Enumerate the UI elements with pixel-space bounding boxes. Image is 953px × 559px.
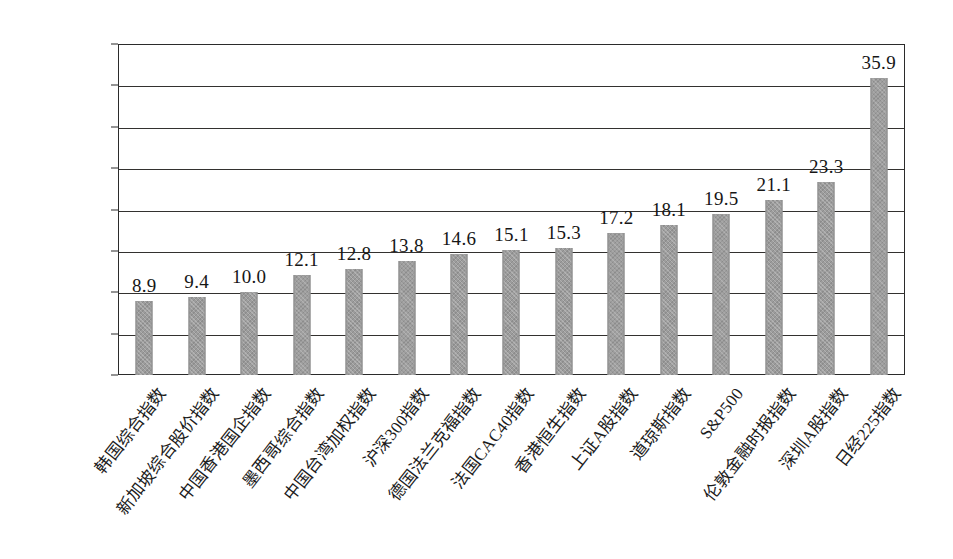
- bar[interactable]: [660, 225, 677, 375]
- bar-value-label: 8.9: [132, 276, 157, 295]
- bar-slot: 23.3: [800, 44, 852, 375]
- bar-value-label: 18.1: [652, 200, 686, 219]
- bar-value-label: 12.1: [284, 250, 318, 269]
- y-tick-mark: [111, 292, 118, 293]
- x-axis-label: 新加坡综合股价指数: [113, 385, 222, 517]
- bar-slot: 15.1: [485, 44, 537, 375]
- y-tick-mark: [111, 44, 118, 45]
- bar[interactable]: [293, 275, 310, 375]
- x-axis-label: S&P500: [697, 385, 747, 442]
- y-tick-mark: [111, 333, 118, 334]
- bar-value-label: 35.9: [862, 53, 896, 72]
- y-tick-mark: [111, 250, 118, 251]
- bar-value-label: 23.3: [809, 157, 843, 176]
- bar-slot: 12.8: [328, 44, 380, 375]
- x-axis-label: 中国台湾加权指数: [281, 385, 379, 504]
- bar-value-label: 15.1: [494, 225, 528, 244]
- bar-value-label: 10.0: [232, 267, 266, 286]
- bar-slot: 9.4: [170, 44, 222, 375]
- bars-layer: 8.99.410.012.112.813.814.615.115.317.218…: [118, 44, 905, 375]
- bar[interactable]: [241, 292, 258, 375]
- bar-slot: 14.6: [433, 44, 485, 375]
- bar-slot: 10.0: [223, 44, 275, 375]
- bar[interactable]: [713, 214, 730, 375]
- bar-slot: 13.8: [380, 44, 432, 375]
- bar-value-label: 15.3: [547, 223, 581, 242]
- x-axis-label: 德国法兰克福指数: [386, 385, 484, 504]
- x-axis-labels: 韩国综合指数新加坡综合股价指数中国香港国企指数墨西哥综合指数中国台湾加权指数沪深…: [118, 375, 905, 559]
- bar-slot: 8.9: [118, 44, 170, 375]
- bar-slot: 15.3: [538, 44, 590, 375]
- y-tick-mark: [111, 126, 118, 127]
- bar-chart: 4035302520151050 8.99.410.012.112.813.81…: [0, 0, 953, 559]
- bar-value-label: 9.4: [184, 272, 209, 291]
- bar-slot: 12.1: [275, 44, 327, 375]
- bar[interactable]: [451, 254, 468, 375]
- bar-slot: 35.9: [853, 44, 905, 375]
- bar[interactable]: [398, 261, 415, 375]
- bar-slot: 18.1: [643, 44, 695, 375]
- bar-slot: 21.1: [748, 44, 800, 375]
- bar[interactable]: [136, 301, 153, 375]
- y-tick-mark: [111, 209, 118, 210]
- bar[interactable]: [555, 248, 572, 375]
- bar[interactable]: [818, 182, 835, 375]
- bar[interactable]: [608, 233, 625, 375]
- bar-value-label: 21.1: [757, 175, 791, 194]
- x-axis-label: 伦敦金融时报指数: [701, 385, 799, 504]
- bar-value-label: 19.5: [704, 189, 738, 208]
- bar-value-label: 12.8: [337, 244, 371, 263]
- bar[interactable]: [870, 78, 887, 375]
- y-tick-mark: [111, 85, 118, 86]
- y-axis: 4035302520151050: [0, 0, 118, 559]
- bar-value-label: 14.6: [442, 229, 476, 248]
- bar[interactable]: [188, 297, 205, 375]
- bar-slot: 17.2: [590, 44, 642, 375]
- bar[interactable]: [503, 250, 520, 375]
- bar-slot: 19.5: [695, 44, 747, 375]
- y-tick-mark: [111, 168, 118, 169]
- bar[interactable]: [346, 269, 363, 375]
- x-axis-label: 中国香港国企指数: [176, 385, 274, 504]
- bar[interactable]: [765, 200, 782, 375]
- bar-value-label: 13.8: [389, 236, 423, 255]
- bar-value-label: 17.2: [599, 208, 633, 227]
- y-tick-mark: [111, 375, 118, 376]
